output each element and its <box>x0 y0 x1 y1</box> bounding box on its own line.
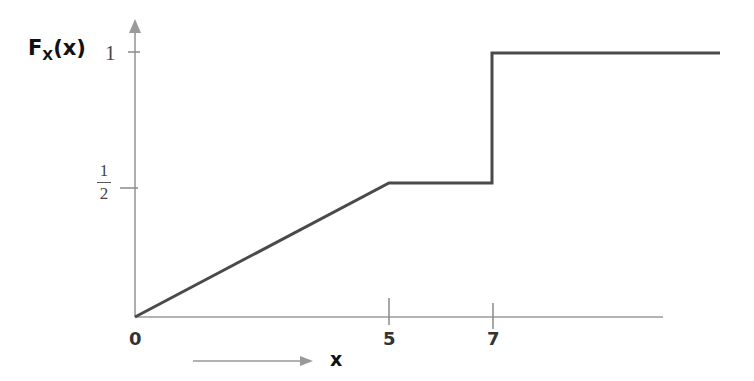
x-tick-label-five: 5 <box>383 328 396 349</box>
y-tick-label-one: 1 <box>105 41 116 66</box>
cdf-curve <box>135 53 720 317</box>
x-direction-arrow-icon <box>300 356 313 366</box>
y-tick-half-numerator: 1 <box>97 162 111 180</box>
y-axis-arrow-icon <box>129 19 141 33</box>
fraction-bar <box>97 182 111 183</box>
x-tick-label-zero: 0 <box>129 328 142 349</box>
y-axis-label-main: F <box>28 36 42 60</box>
y-tick-label-half: 1 2 <box>97 162 111 203</box>
x-tick-label-seven: 7 <box>487 328 500 349</box>
x-axis-label: x <box>330 348 342 370</box>
y-axis-label-subscript: X <box>42 47 53 63</box>
y-axis-label-arg: (x) <box>53 36 86 60</box>
y-axis-label: FX(x) <box>28 36 86 63</box>
y-tick-half-denominator: 2 <box>97 185 111 203</box>
